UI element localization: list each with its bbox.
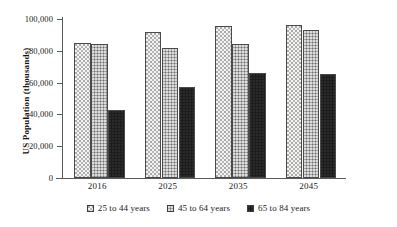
bar	[286, 25, 303, 178]
bar	[108, 110, 125, 178]
bar-group	[133, 19, 204, 178]
bar	[303, 30, 320, 178]
legend-label: 25 to 44 years	[98, 203, 150, 213]
y-axis-tick-label: 100,000	[0, 15, 53, 24]
legend-label: 45 to 64 years	[178, 203, 230, 213]
y-axis-tick-label: 60,000	[0, 79, 53, 88]
bar-group	[274, 19, 345, 178]
y-axis-tick	[57, 178, 62, 179]
y-axis-title-container: US Population (thousands)	[16, 0, 30, 190]
y-axis-tick-label: 80,000	[0, 47, 53, 56]
bar	[249, 73, 266, 178]
legend-label: 65 to 84 years	[258, 203, 310, 213]
legend-item[interactable]: 65 to 84 years	[247, 203, 310, 213]
plot-area	[62, 19, 344, 178]
bar	[232, 44, 249, 178]
bar-group	[203, 19, 274, 178]
y-axis-tick-label: 40,000	[0, 110, 53, 119]
y-axis-tick-label: 0	[0, 174, 53, 183]
y-axis-title: US Population (thousands)	[21, 11, 31, 191]
x-axis-tick-label: 2035	[203, 181, 274, 191]
legend-item[interactable]: 25 to 44 years	[87, 203, 150, 213]
bar	[320, 74, 337, 178]
x-axis-line	[56, 178, 346, 179]
bar	[145, 32, 162, 178]
bar	[162, 48, 179, 178]
chart-legend: 25 to 44 years45 to 64 years65 to 84 yea…	[0, 199, 397, 217]
bar-chart: US Population (thousands) 100,00080,0006…	[0, 0, 397, 227]
legend-item[interactable]: 45 to 64 years	[167, 203, 230, 213]
gray-dotted-swatch	[167, 205, 174, 212]
y-axis-tick-label: 20,000	[0, 142, 53, 151]
light-dotted-swatch	[87, 205, 94, 212]
x-axis-tick-label: 2025	[133, 181, 204, 191]
bar	[179, 87, 196, 178]
bar	[91, 44, 108, 178]
x-axis-tick-label: 2016	[62, 181, 133, 191]
bar	[215, 26, 232, 178]
bar-group	[62, 19, 133, 178]
bar	[74, 43, 91, 178]
solid-black-swatch	[247, 205, 254, 212]
x-axis-tick-label: 2045	[274, 181, 345, 191]
